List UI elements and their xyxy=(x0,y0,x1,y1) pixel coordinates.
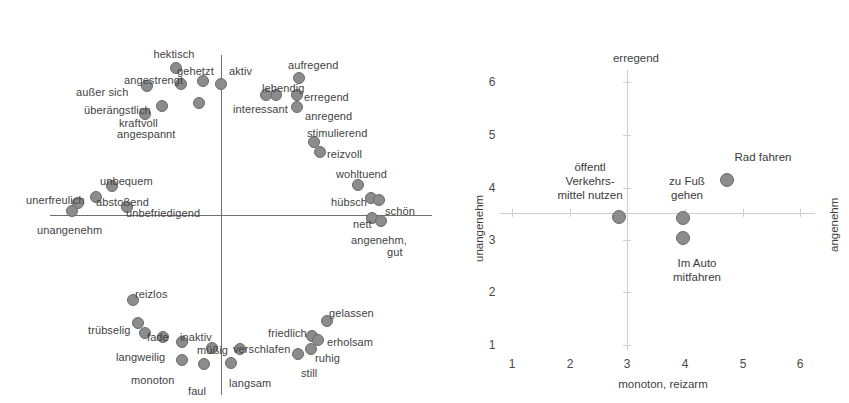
data-point xyxy=(676,231,690,245)
y-tick-label: 3 xyxy=(489,234,496,246)
right-scatter-panel: 123456123456 öffentl Verkehrs- mittel nu… xyxy=(0,0,849,403)
data-point-label: öffentl Verkehrs- mittel nutzen xyxy=(557,160,622,202)
y-tick-label: 4 xyxy=(489,182,496,194)
data-point xyxy=(612,210,626,224)
x-tick-label: 5 xyxy=(740,358,747,370)
data-point-label: Rad fahren xyxy=(735,150,792,164)
axis-title-monoton-reizarm: monoton, reizarm xyxy=(618,378,707,391)
y-tick-label: 2 xyxy=(489,286,496,298)
y-tick-label: 1 xyxy=(489,339,496,351)
axis-title-unangenehm: unangenehm xyxy=(473,195,486,262)
x-tick-label: 6 xyxy=(797,358,804,370)
x-tick-label: 1 xyxy=(509,358,516,370)
right-vertical-axis xyxy=(627,70,628,350)
data-point-label: zu Fuß gehen xyxy=(669,174,705,202)
x-tick-label: 2 xyxy=(567,358,574,370)
axis-title-angenehm: angenehm xyxy=(828,198,841,252)
data-point-label: Im Auto mitfahren xyxy=(673,256,721,284)
axis-title-erregend: erregend xyxy=(613,52,659,65)
y-tick-label: 6 xyxy=(489,76,496,88)
x-tick-label: 3 xyxy=(624,358,631,370)
data-point xyxy=(720,173,734,187)
y-tick-label: 5 xyxy=(489,129,496,141)
data-point xyxy=(676,211,690,225)
figure-root: hektischgehetztaktivangestrengtaußer sic… xyxy=(0,0,849,403)
x-tick-label: 4 xyxy=(682,358,689,370)
right-horizontal-axis xyxy=(500,213,815,214)
